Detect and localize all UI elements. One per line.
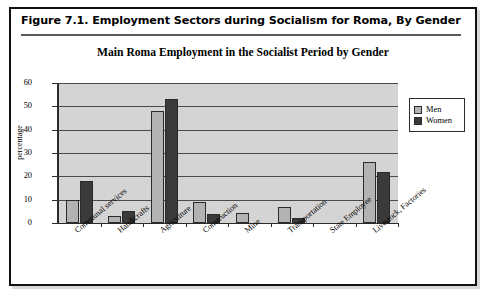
y-axis-tick	[52, 223, 57, 224]
figure-caption: Figure 7.1. Employment Sectors during So…	[21, 14, 461, 27]
y-axis-tick-label: 40	[10, 125, 32, 134]
legend-item: Women	[414, 116, 461, 125]
y-axis-tick	[52, 130, 57, 131]
y-axis-tick-label: 0	[10, 218, 32, 227]
bar-men	[108, 216, 121, 223]
chart-title: Main Roma Employment in the Socialist Pe…	[11, 46, 475, 59]
x-axis-tick	[228, 223, 229, 227]
legend-label-men: Men	[426, 105, 441, 114]
legend-swatch-men	[414, 106, 422, 114]
gridline	[58, 153, 398, 154]
bar-men	[236, 213, 249, 224]
x-axis-tick	[313, 223, 314, 227]
gridline	[58, 130, 398, 131]
legend-item: Men	[414, 105, 461, 114]
bar-men	[278, 207, 291, 223]
y-axis-tick	[52, 106, 57, 107]
y-axis-tick	[52, 83, 57, 84]
gridline	[58, 106, 398, 107]
figure-caption-bar: Figure 7.1. Employment Sectors during So…	[11, 9, 475, 39]
y-axis-line	[57, 83, 59, 224]
bar-men	[193, 202, 206, 223]
x-axis-tick	[186, 223, 187, 227]
chart-area: Main Roma Employment in the Socialist Pe…	[11, 38, 475, 286]
bar-women	[165, 99, 178, 223]
y-axis-tick-label: 50	[10, 101, 32, 110]
bar-men	[66, 200, 79, 223]
x-axis-tick	[271, 223, 272, 227]
bar-men	[363, 162, 376, 223]
y-axis-tick	[52, 176, 57, 177]
x-axis-tick	[398, 223, 399, 227]
y-axis-tick	[52, 153, 57, 154]
x-axis-tick	[356, 223, 357, 227]
y-axis-tick-label: 10	[10, 195, 32, 204]
chart-legend: Men Women	[409, 98, 465, 132]
gridline	[58, 83, 398, 84]
bar-men	[151, 111, 164, 223]
x-axis-tick	[101, 223, 102, 227]
caption-divider	[21, 34, 461, 36]
y-axis-tick	[52, 200, 57, 201]
legend-swatch-women	[414, 117, 422, 125]
y-axis-tick-label: 30	[10, 148, 32, 157]
y-axis-tick-label: 20	[10, 171, 32, 180]
x-axis-tick	[143, 223, 144, 227]
y-axis-tick-label: 60	[10, 78, 32, 87]
figure-frame: Figure 7.1. Employment Sectors during So…	[9, 7, 477, 286]
legend-label-women: Women	[426, 116, 452, 125]
gridline	[58, 176, 398, 177]
